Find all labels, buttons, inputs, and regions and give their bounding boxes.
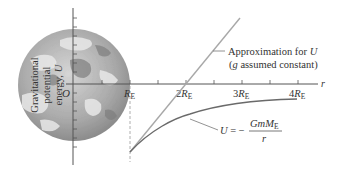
x-axis-ticks xyxy=(102,80,298,84)
svg-text:r: r xyxy=(262,133,267,144)
svg-text:Gravitational: Gravitational xyxy=(29,57,40,112)
formula-leader xyxy=(190,119,218,130)
svg-text:Approximation for U: Approximation for U xyxy=(228,46,319,57)
gravitational-potential-energy-diagram: Gravitational potential energy,U O r RE … xyxy=(0,0,347,180)
approximation-label: Approximation for U (g assumed constant) xyxy=(228,46,319,71)
origin-label: O xyxy=(62,87,70,99)
x-axis-label: r xyxy=(321,78,325,89)
svg-text:2RE: 2RE xyxy=(176,88,193,101)
formula-label: U = − GmME r xyxy=(220,118,282,144)
svg-text:U = −: U = − xyxy=(220,125,245,136)
svg-text:3RE: 3RE xyxy=(233,88,250,101)
svg-text:GmME: GmME xyxy=(250,118,279,131)
svg-text:(g assumed constant): (g assumed constant) xyxy=(229,59,318,71)
svg-text:energy,U: energy,U xyxy=(53,63,64,105)
svg-text:potential: potential xyxy=(41,67,52,104)
